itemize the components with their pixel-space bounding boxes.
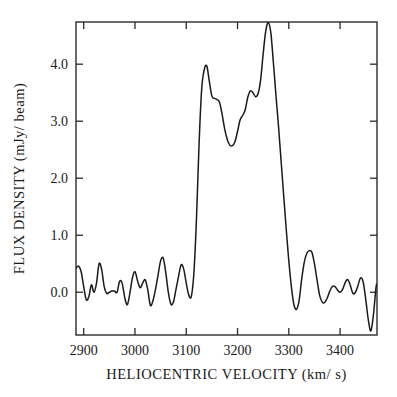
y-tick-label: 1.0: [51, 228, 69, 243]
x-axis-label: HELIOCENTRIC VELOCITY (km/ s): [106, 366, 346, 383]
spectrum-plot: 290030003100320033003400 0.01.02.03.04.0…: [0, 0, 397, 397]
x-tick-label: 2900: [70, 343, 98, 358]
x-tick-label: 3000: [121, 343, 149, 358]
y-tick-label: 4.0: [51, 57, 69, 72]
x-tick-label: 3300: [275, 343, 303, 358]
y-axis-ticks: [76, 64, 377, 292]
y-tick-label: 2.0: [51, 171, 69, 186]
data-area: [76, 23, 377, 332]
x-axis-tick-labels: 290030003100320033003400: [70, 343, 354, 358]
y-tick-label: 0.0: [51, 285, 69, 300]
y-axis-label: FLUX DENSITY (mJy/ beam): [11, 83, 28, 274]
x-tick-label: 3100: [172, 343, 200, 358]
x-tick-label: 3400: [326, 343, 354, 358]
x-tick-label: 3200: [224, 343, 252, 358]
spectrum-line: [76, 23, 377, 332]
y-tick-label: 3.0: [51, 114, 69, 129]
x-axis-ticks: [84, 22, 340, 335]
y-axis-tick-labels: 0.01.02.03.04.0: [51, 57, 69, 300]
figure-container: 290030003100320033003400 0.01.02.03.04.0…: [0, 0, 397, 397]
